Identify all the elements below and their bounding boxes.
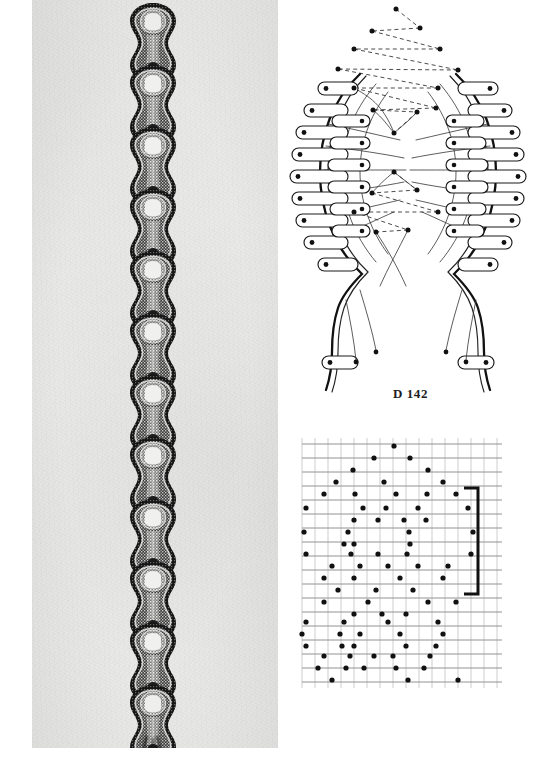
plate-page: .thk{fill:none;stroke:#111;stroke-width:… bbox=[0, 0, 533, 760]
pricking-grid-horizontal bbox=[302, 444, 502, 682]
diagram-caption: D 142 bbox=[288, 386, 533, 402]
lace-photograph bbox=[32, 0, 278, 748]
bottom-tails bbox=[346, 290, 476, 364]
photo-vignette bbox=[32, 0, 278, 748]
pricking-pin-dots bbox=[299, 443, 475, 682]
working-diagram-svg: .thk{fill:none;stroke:#111;stroke-width:… bbox=[288, 0, 533, 400]
pricking-grid-vertical bbox=[302, 438, 497, 688]
working-diagram-panel: .thk{fill:none;stroke:#111;stroke-width:… bbox=[288, 0, 533, 412]
pricking-svg: .gl{stroke:#6f6f6f;stroke-width:0.75;} .… bbox=[288, 436, 533, 696]
pricking-panel: .gl{stroke:#6f6f6f;stroke-width:0.75;} .… bbox=[288, 436, 533, 726]
